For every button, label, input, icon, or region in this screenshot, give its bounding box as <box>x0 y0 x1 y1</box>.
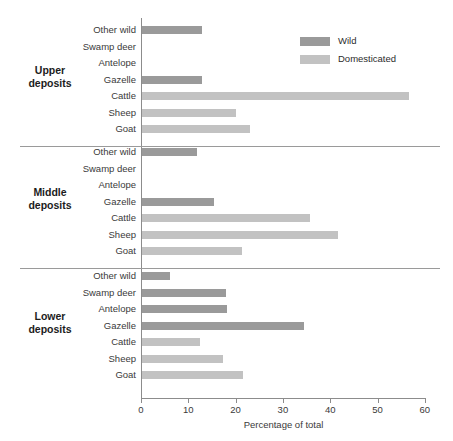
category-label: Swamp deer <box>36 164 136 174</box>
category-label: Cattle <box>36 91 136 101</box>
category-label: Other wild <box>36 25 136 35</box>
bar <box>142 198 214 206</box>
x-axis-tick-label: 50 <box>363 404 393 415</box>
bar <box>142 272 170 280</box>
x-axis-tick <box>283 398 284 403</box>
category-label: Goat <box>36 370 136 380</box>
bar-chart: UpperdepositsOther wildSwamp deerAntelop… <box>0 0 453 441</box>
bar <box>142 231 338 239</box>
category-label: Sheep <box>36 230 136 240</box>
category-label: Cattle <box>36 337 136 347</box>
bar <box>142 109 236 117</box>
category-label: Other wild <box>36 147 136 157</box>
x-axis-tick-label: 20 <box>221 404 251 415</box>
bar <box>142 26 202 34</box>
x-axis-tick <box>378 398 379 403</box>
x-axis-tick-label: 40 <box>315 404 345 415</box>
legend-swatch-wild-icon <box>300 37 330 46</box>
x-axis-tick <box>236 398 237 403</box>
x-axis-label: Percentage of total <box>141 419 426 430</box>
bar <box>142 338 200 346</box>
category-label: Gazelle <box>36 197 136 207</box>
legend-label-wild: Wild <box>338 34 356 48</box>
x-axis-tick <box>188 398 189 403</box>
category-label: Sheep <box>36 354 136 364</box>
legend-label-domesticated: Domesticated <box>338 52 396 66</box>
x-axis-tick-label: 0 <box>126 404 156 415</box>
bar <box>142 76 202 84</box>
bar <box>142 355 223 363</box>
category-label: Antelope <box>36 180 136 190</box>
bar <box>142 92 409 100</box>
x-axis-tick-label: 60 <box>410 404 440 415</box>
category-label: Antelope <box>36 304 136 314</box>
bar <box>142 305 227 313</box>
x-axis-tick <box>425 398 426 403</box>
category-label: Gazelle <box>36 321 136 331</box>
category-label: Swamp deer <box>36 288 136 298</box>
legend-swatch-domesticated-icon <box>300 55 330 64</box>
x-axis-tick <box>141 398 142 403</box>
category-label: Cattle <box>36 213 136 223</box>
category-label: Goat <box>36 246 136 256</box>
category-label: Other wild <box>36 271 136 281</box>
x-axis-tick-label: 10 <box>173 404 203 415</box>
x-axis-tick <box>330 398 331 403</box>
category-label: Swamp deer <box>36 42 136 52</box>
bar <box>142 247 242 255</box>
bar <box>142 125 250 133</box>
bar <box>142 371 243 379</box>
bar <box>142 214 310 222</box>
category-label: Antelope <box>36 58 136 68</box>
category-label: Gazelle <box>36 75 136 85</box>
bar <box>142 322 304 330</box>
category-label: Sheep <box>36 108 136 118</box>
bar <box>142 289 226 297</box>
x-axis-tick-label: 30 <box>268 404 298 415</box>
group-separator <box>20 268 440 269</box>
bar <box>142 148 197 156</box>
category-label: Goat <box>36 124 136 134</box>
